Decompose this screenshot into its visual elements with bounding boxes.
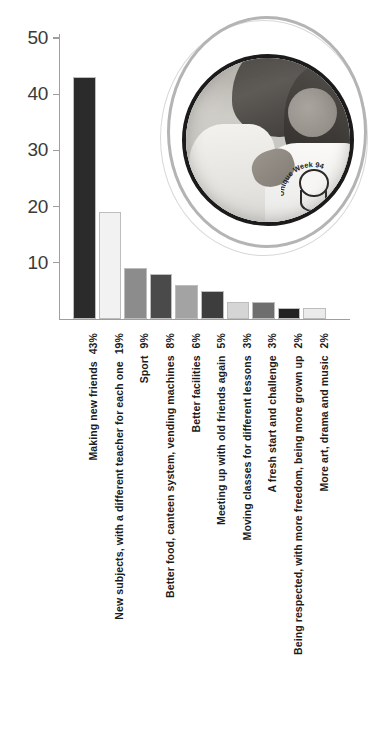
y-tick-label-40: 40 xyxy=(27,84,48,103)
y-tick-30 xyxy=(53,150,60,151)
y-tick-50 xyxy=(53,37,60,38)
bar-1 xyxy=(99,212,122,319)
page-edge-artifact xyxy=(0,505,8,705)
bar-5 xyxy=(201,291,224,319)
y-tick-label-30: 30 xyxy=(27,140,48,159)
bar-8 xyxy=(278,308,301,319)
bar-3 xyxy=(150,274,173,319)
x-axis-line xyxy=(59,319,350,320)
bar-0 xyxy=(73,77,96,319)
y-tick-20 xyxy=(53,206,60,207)
bar-7 xyxy=(252,302,275,319)
y-tick-10 xyxy=(53,262,60,263)
y-tick-40 xyxy=(53,94,60,95)
bar-6 xyxy=(227,302,250,319)
y-tick-label-50: 50 xyxy=(27,28,48,47)
y-tick-label-20: 20 xyxy=(27,197,48,216)
bar-9 xyxy=(303,308,326,319)
y-tick-label-10: 10 xyxy=(27,253,48,272)
y-axis-line xyxy=(59,34,60,320)
bar-2 xyxy=(124,268,147,319)
bar-4 xyxy=(175,285,198,319)
